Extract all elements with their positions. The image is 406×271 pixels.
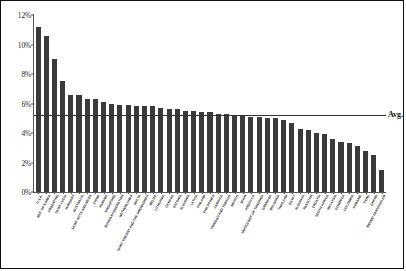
bar <box>240 115 245 192</box>
bar <box>36 27 41 192</box>
y-axis-tick-mark <box>31 74 34 75</box>
y-axis-tick-mark <box>31 15 34 16</box>
y-axis-tick-mark <box>31 192 34 193</box>
bar <box>207 112 212 192</box>
bar <box>44 36 49 192</box>
average-line-label: Avg. 5.20% <box>388 110 404 119</box>
y-axis-tick-label: 12% <box>18 11 31 20</box>
y-axis-tick-label: 4% <box>21 129 31 138</box>
bar <box>199 112 204 192</box>
y-axis-tick-label: 0% <box>21 188 31 197</box>
y-axis-tick-mark <box>31 103 34 104</box>
bar <box>109 104 114 193</box>
y-axis-tick-mark <box>31 44 34 45</box>
chart-figure: 0%2%4%6%8%10%12% Avg. 5.20% U.S.A.REP. O… <box>0 0 404 269</box>
x-axis-label: BRUNEI DARUSSALAM <box>383 161 404 196</box>
bar <box>248 117 253 192</box>
average-line <box>34 115 386 116</box>
y-axis-tick-label: 10% <box>18 40 31 49</box>
bar <box>158 108 163 192</box>
bar <box>142 106 147 192</box>
plot-area: 0%2%4%6%8%10%12% <box>34 15 386 192</box>
bar <box>175 109 180 192</box>
y-axis-tick-label: 8% <box>21 70 31 79</box>
y-axis-tick-mark <box>31 133 34 134</box>
bar <box>183 111 188 192</box>
bar <box>298 129 303 192</box>
y-axis-tick-mark <box>31 162 34 163</box>
y-axis-tick-label: 6% <box>21 99 31 108</box>
y-axis-tick-label: 2% <box>21 158 31 167</box>
bar <box>52 59 57 192</box>
